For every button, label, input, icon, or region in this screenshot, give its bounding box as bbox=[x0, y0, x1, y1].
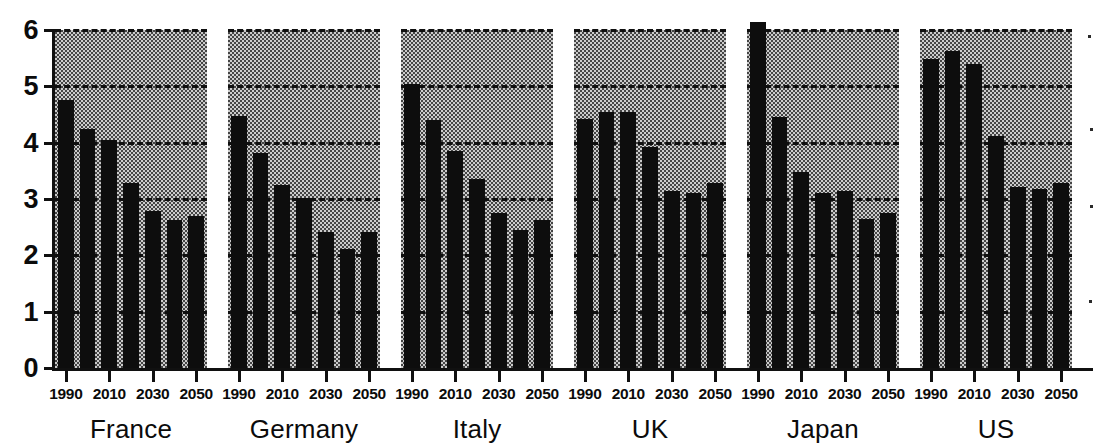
x-axis-tick-2030 bbox=[671, 371, 674, 382]
bar-group bbox=[228, 0, 380, 445]
scan-artifact-dot bbox=[1088, 35, 1091, 38]
bar-france-2020 bbox=[123, 183, 139, 368]
x-axis-label-us-1990: 1990 bbox=[914, 386, 947, 402]
x-axis-tick-2050 bbox=[1060, 371, 1063, 382]
y-axis-tick-0 bbox=[44, 367, 55, 370]
x-axis-tick-2030 bbox=[1017, 371, 1020, 382]
bar-japan-2040 bbox=[859, 219, 875, 368]
x-axis-tick-2010 bbox=[627, 371, 630, 382]
bar-germany-2030 bbox=[318, 232, 334, 368]
bar-italy-2020 bbox=[469, 179, 485, 368]
x-axis-label-germany-2050: 2050 bbox=[352, 386, 385, 402]
x-axis-tick-2030 bbox=[325, 371, 328, 382]
chart-figure: 6543210 1990201020302050France1990201020… bbox=[0, 0, 1098, 445]
x-axis-baseline bbox=[920, 368, 1093, 371]
x-axis-label-uk-2030: 2030 bbox=[655, 386, 688, 402]
x-axis-tick-1990 bbox=[65, 371, 68, 382]
x-axis-tick-1990 bbox=[411, 371, 414, 382]
y-axis-tick-label-2: 2 bbox=[23, 242, 38, 269]
bar-japan-1990 bbox=[750, 22, 766, 368]
bar-group bbox=[574, 0, 726, 445]
x-axis-label-italy-2050: 2050 bbox=[525, 386, 558, 402]
x-axis-label-uk-2010: 2010 bbox=[612, 386, 645, 402]
bar-uk-2010 bbox=[620, 112, 636, 368]
scan-artifact-dot bbox=[1089, 300, 1092, 303]
y-axis-tick-label-3: 3 bbox=[23, 186, 38, 213]
scan-artifact-dot bbox=[1090, 128, 1093, 131]
x-axis-label-japan-1990: 1990 bbox=[741, 386, 774, 402]
bar-us-2030 bbox=[1010, 187, 1026, 368]
bar-group bbox=[920, 0, 1072, 445]
x-axis-label-japan-2050: 2050 bbox=[871, 386, 904, 402]
panel-title-uk: UK bbox=[632, 416, 669, 442]
bar-france-2010 bbox=[101, 140, 117, 368]
x-axis-tick-2010 bbox=[800, 371, 803, 382]
bar-germany-2050 bbox=[361, 232, 377, 368]
bar-france-1990 bbox=[58, 100, 74, 368]
x-axis-tick-2010 bbox=[973, 371, 976, 382]
x-axis-tick-1990 bbox=[238, 371, 241, 382]
x-axis-label-italy-2010: 2010 bbox=[439, 386, 472, 402]
panel-title-us: US bbox=[978, 416, 1015, 442]
x-axis-baseline bbox=[747, 368, 920, 371]
x-axis-tick-2010 bbox=[454, 371, 457, 382]
y-axis-labels: 6543210 bbox=[0, 0, 46, 445]
x-axis-label-france-2010: 2010 bbox=[93, 386, 126, 402]
bar-us-2040 bbox=[1032, 189, 1048, 368]
bar-group bbox=[747, 0, 899, 445]
bar-italy-2010 bbox=[447, 151, 463, 368]
y-axis-tick-1 bbox=[44, 311, 55, 314]
x-axis-label-us-2030: 2030 bbox=[1001, 386, 1034, 402]
y-axis-tick-label-1: 1 bbox=[23, 298, 38, 325]
bar-uk-2020 bbox=[642, 147, 658, 368]
bar-france-2050 bbox=[188, 216, 204, 368]
x-axis-tick-1990 bbox=[757, 371, 760, 382]
bar-us-2010 bbox=[966, 64, 982, 368]
bar-germany-2020 bbox=[296, 198, 312, 368]
x-axis-tick-2030 bbox=[152, 371, 155, 382]
bar-us-2050 bbox=[1053, 183, 1069, 368]
panel-uk: 1990201020302050UK bbox=[574, 0, 726, 445]
bar-us-1990 bbox=[923, 59, 939, 368]
panel-japan: 1990201020302050Japan bbox=[747, 0, 899, 445]
x-axis-tick-1990 bbox=[930, 371, 933, 382]
x-axis-label-france-1990: 1990 bbox=[49, 386, 82, 402]
x-axis-baseline bbox=[55, 368, 228, 371]
x-axis-label-japan-2010: 2010 bbox=[785, 386, 818, 402]
x-axis-label-germany-1990: 1990 bbox=[222, 386, 255, 402]
y-axis-tick-label-0: 0 bbox=[23, 355, 38, 382]
bar-france-2040 bbox=[167, 220, 183, 368]
bar-germany-2040 bbox=[340, 249, 356, 368]
y-axis-tick-label-6: 6 bbox=[23, 17, 38, 44]
x-axis-label-uk-1990: 1990 bbox=[568, 386, 601, 402]
bar-france-2000 bbox=[80, 129, 96, 368]
x-axis-tick-2010 bbox=[281, 371, 284, 382]
x-axis-tick-2030 bbox=[844, 371, 847, 382]
bar-italy-1990 bbox=[404, 84, 420, 368]
bar-italy-2050 bbox=[534, 220, 550, 368]
x-axis-baseline bbox=[401, 368, 574, 371]
panel-title-france: France bbox=[90, 416, 172, 442]
panel-title-germany: Germany bbox=[250, 416, 358, 442]
plot-area: 1990201020302050France1990201020302050Ge… bbox=[55, 0, 1098, 445]
x-axis-tick-2010 bbox=[108, 371, 111, 382]
y-axis-tick-6 bbox=[44, 29, 55, 32]
bar-italy-2000 bbox=[426, 120, 442, 368]
bar-uk-2030 bbox=[664, 191, 680, 368]
bar-uk-1990 bbox=[577, 119, 593, 368]
bar-germany-2000 bbox=[253, 153, 269, 368]
bar-germany-2010 bbox=[274, 185, 290, 368]
x-axis-tick-1990 bbox=[584, 371, 587, 382]
y-axis-tick-label-4: 4 bbox=[23, 129, 38, 156]
y-axis-tick-4 bbox=[44, 142, 55, 145]
bar-us-2020 bbox=[988, 136, 1004, 368]
y-axis-tick-2 bbox=[44, 254, 55, 257]
bar-uk-2040 bbox=[686, 193, 702, 368]
x-axis-baseline bbox=[228, 368, 401, 371]
bar-japan-2020 bbox=[815, 193, 831, 368]
y-axis-tick-5 bbox=[44, 85, 55, 88]
bar-uk-2050 bbox=[707, 183, 723, 368]
x-axis-tick-2050 bbox=[541, 371, 544, 382]
bar-uk-2000 bbox=[599, 112, 615, 368]
panel-title-italy: Italy bbox=[453, 416, 502, 442]
